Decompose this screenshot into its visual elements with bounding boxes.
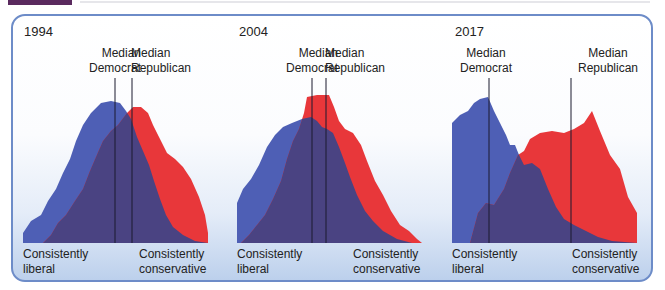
chart-2017: 2017 MedianDemocrat MedianRepublican Con… bbox=[451, 16, 651, 284]
distribution-plot bbox=[452, 16, 652, 284]
header-rule bbox=[80, 1, 650, 3]
distribution-plot bbox=[237, 16, 437, 284]
x-label-conservative: Consistentlyconservative bbox=[139, 247, 215, 277]
section-tab-bar bbox=[8, 0, 72, 5]
distribution-plot bbox=[23, 16, 223, 284]
x-label-conservative: Consistentlyconservative bbox=[353, 247, 429, 277]
x-label-liberal: Consistentlyliberal bbox=[237, 247, 317, 277]
chart-1994: 1994 MedianDemocrat MedianRepublican Con… bbox=[21, 16, 221, 284]
figure-panel: 1994 MedianDemocrat MedianRepublican Con… bbox=[11, 14, 653, 282]
chart-2004: 2004 MedianDemocrat MedianRepublican Con… bbox=[235, 16, 435, 284]
x-label-conservative: Consistentlyconservative bbox=[572, 247, 648, 277]
x-label-liberal: Consistentlyliberal bbox=[452, 247, 532, 277]
x-label-liberal: Consistentlyliberal bbox=[23, 247, 103, 277]
